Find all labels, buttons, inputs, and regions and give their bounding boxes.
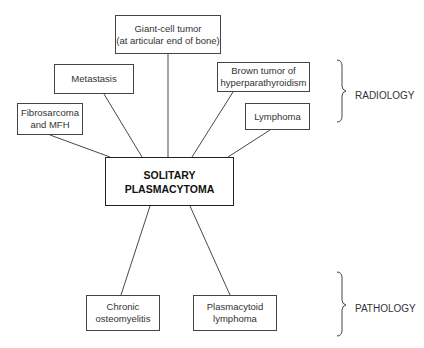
node-fibrosarcoma-mfh: Fibrosarcoma and MFH [17,103,83,135]
node-brown-tumor: Brown tumor of hyperparathyroidism [217,62,310,92]
node-chronic-osteomyelitis: Chronic osteomyelitis [86,295,160,331]
node-lymphoma: Lymphoma [245,103,310,130]
pathology-brace-icon [337,272,346,336]
group-label-radiology: RADIOLOGY [355,90,414,101]
node-label: Brown tumor of hyperparathyroidism [220,65,306,89]
line-fibrosarcoma [50,135,110,157]
line-lymphoma [228,130,270,157]
group-label-pathology: PATHOLOGY [355,303,416,314]
node-label: Metastasis [71,73,116,85]
radiology-brace-icon [337,60,346,122]
line-metastasis [104,94,142,157]
node-label: Fibrosarcoma and MFH [21,107,79,131]
node-label: Lymphoma [254,111,301,123]
node-label: Giant-cell tumor (at articular end of bo… [116,23,220,47]
center-label: SOLITARY PLASMACYTOMA [125,168,215,196]
line-brown-tumor [192,92,233,157]
node-label: Plasmacytoid lymphoma [207,301,264,325]
line-plasmacytoid-lymphoma [190,206,230,295]
node-solitary-plasmacytoma: SOLITARY PLASMACYTOMA [105,157,234,206]
node-giant-cell-tumor: Giant-cell tumor (at articular end of bo… [115,15,221,54]
node-plasmacytoid-lymphoma: Plasmacytoid lymphoma [193,295,277,331]
node-label: Chronic osteomyelitis [96,301,151,325]
node-metastasis: Metastasis [54,64,134,94]
line-chronic-osteomyelitis [121,206,150,295]
